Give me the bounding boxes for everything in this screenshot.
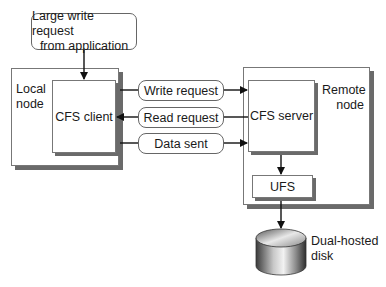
message-data-sent: Data sent	[138, 133, 224, 154]
message-write-request: Write request	[138, 80, 224, 101]
disk-label: Dual-hosted disk	[311, 234, 378, 264]
disk-label-line1: Dual-hosted	[311, 234, 378, 249]
disk-icon	[256, 229, 306, 275]
message-read-request: Read request	[138, 107, 224, 128]
message-read-label: Read request	[143, 111, 218, 125]
message-write-label: Write request	[144, 84, 218, 98]
disk-label-line2: disk	[311, 249, 378, 264]
message-data-label: Data sent	[154, 137, 208, 151]
